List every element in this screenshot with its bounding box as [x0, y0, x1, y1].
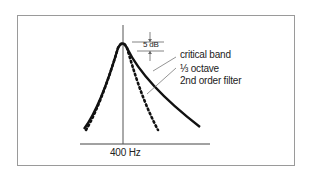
filter-leader	[147, 68, 176, 94]
third-octave-filter-curve	[86, 44, 158, 131]
response-curves-diagram	[0, 0, 311, 177]
frequency-tick-label: 400 Hz	[110, 147, 141, 158]
db-marker-label: 5 dB	[143, 40, 159, 49]
third-octave-label: ⅓ octave	[180, 63, 219, 74]
critical-band-label: critical band	[180, 49, 231, 60]
critical-band-leader	[153, 57, 176, 71]
filter-label: 2nd order filter	[180, 75, 241, 86]
